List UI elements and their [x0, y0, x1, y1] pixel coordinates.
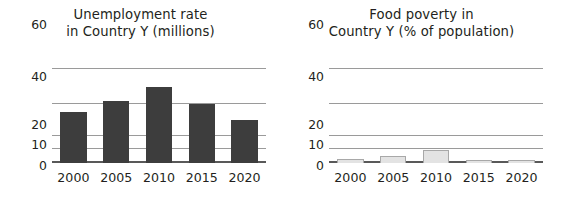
x-axis-labels-unemployment: 20002005201020152020: [52, 170, 266, 190]
bar-2010: [423, 150, 450, 163]
chart-panel-unemployment: Unemployment rate in Country Y (millions…: [0, 0, 281, 199]
x-tick-label-2015: 2015: [463, 170, 495, 186]
y-tick-label-0: 0: [39, 160, 47, 167]
bar-2015: [189, 104, 216, 163]
bar-2005: [380, 156, 407, 163]
bar-2020: [508, 160, 535, 163]
bar-2000: [60, 112, 87, 163]
y-tick-label-60: 60: [308, 19, 324, 120]
x-tick-label-2020: 2020: [506, 170, 538, 186]
two-panel-bar-chart-figure: Unemployment rate in Country Y (millions…: [0, 0, 563, 199]
chart-title-line-1: Unemployment rate: [73, 7, 207, 22]
x-tick-label-2010: 2010: [143, 170, 175, 186]
x-tick-label-2005: 2005: [377, 170, 409, 186]
bars-unemployment: [52, 62, 266, 170]
bar-2020: [231, 120, 258, 163]
chart-panel-food-poverty: Food poverty in Country Y (% of populati…: [281, 0, 562, 199]
x-tick-label-2000: 2000: [334, 170, 366, 186]
bar-2015: [466, 160, 493, 164]
y-tick-label-60: 60: [31, 19, 47, 120]
x-axis-labels-food-poverty: 20002005201020152020: [329, 170, 543, 190]
plot-area-unemployment: 010204060: [52, 62, 266, 170]
bar-2005: [103, 101, 130, 164]
x-tick-label-2005: 2005: [100, 170, 132, 186]
chart-title-line-1: Food poverty in: [369, 7, 473, 22]
bars-food-poverty: [329, 62, 543, 170]
bar-2000: [337, 159, 364, 163]
x-tick-label-2020: 2020: [229, 170, 261, 186]
plot-area-food-poverty: 010204060: [329, 62, 543, 170]
x-tick-label-2010: 2010: [420, 170, 452, 186]
bar-2010: [146, 87, 173, 164]
y-tick-label-0: 0: [316, 160, 324, 167]
x-tick-label-2000: 2000: [57, 170, 89, 186]
x-tick-label-2015: 2015: [186, 170, 218, 186]
